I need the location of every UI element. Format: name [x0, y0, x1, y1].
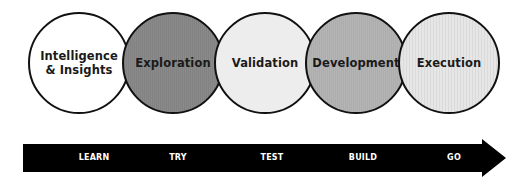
phase-circle-execution: Execution: [398, 12, 500, 114]
stage-label-go: GO: [447, 153, 461, 162]
phase-circle-intelligence-insights: Intelligence & Insights: [28, 12, 130, 114]
phase-label: Execution: [417, 56, 482, 70]
phase-label: Development: [312, 56, 399, 70]
phase-circle-exploration: Exploration: [122, 12, 224, 114]
phase-circle-development: Development: [305, 12, 407, 114]
phase-label: Validation: [232, 56, 298, 70]
stage-label-try: TRY: [169, 153, 187, 162]
process-diagram: Intelligence & Insights Exploration Vali…: [0, 0, 529, 185]
phase-label: Exploration: [135, 56, 210, 70]
stage-label-learn: LEARN: [79, 153, 110, 162]
stage-label-build: BUILD: [349, 153, 377, 162]
stage-label-test: TEST: [261, 153, 284, 162]
phase-circle-validation: Validation: [214, 12, 316, 114]
phase-label: Intelligence & Insights: [40, 49, 118, 77]
